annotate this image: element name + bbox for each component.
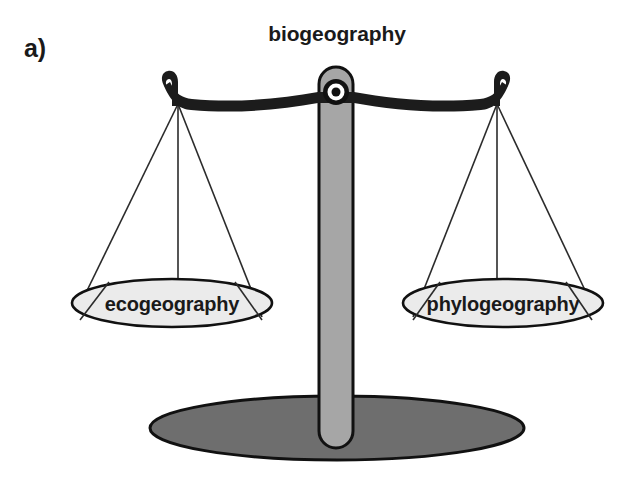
pivot-center-dot: [332, 88, 341, 97]
scale-column: [319, 67, 353, 448]
panel-label: a): [24, 34, 46, 62]
right-string-outer-right: [497, 104, 592, 305]
left-pan-label: ecogeography: [105, 293, 240, 315]
right-pan-label: phylogeography: [427, 293, 581, 315]
balance-scale-figure: a) biogeography ecogeography phylogeogra…: [0, 0, 636, 490]
figure-title: biogeography: [268, 22, 406, 45]
left-string-outer-left: [80, 104, 178, 305]
figure-root: a) biogeography ecogeography phylogeogra…: [0, 0, 636, 490]
pivot-point: [323, 79, 349, 105]
